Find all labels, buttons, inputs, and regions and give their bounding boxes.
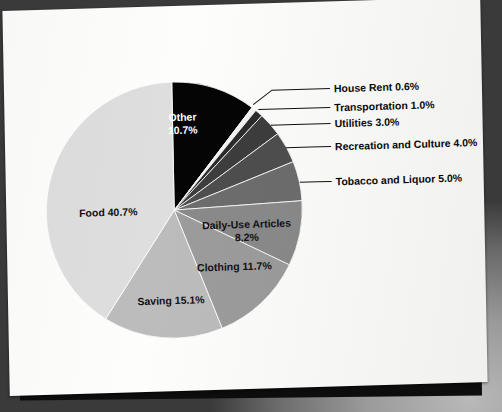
- white-paper-sheet: Other 10.7% Food 40.7% Saving 15.1% Clot…: [2, 0, 487, 396]
- slice-label-saving: Saving 15.1%: [137, 293, 205, 307]
- callout-label-house-rent: House Rent 0.6%: [334, 80, 420, 95]
- leader-line-house-rent: [253, 88, 330, 104]
- leader-line-recreation: [286, 146, 331, 147]
- callout-label-utilities: Utilities 3.0%: [334, 115, 400, 129]
- photograph-of-printed-chart: Other 10.7% Food 40.7% Saving 15.1% Clot…: [0, 0, 502, 412]
- callout-label-recreation: Recreation and Culture 4.0%: [335, 136, 478, 152]
- leader-line-transportation: [258, 107, 330, 109]
- slice-label-clothing: Clothing 11.7%: [197, 259, 273, 273]
- callout-label-transportation: Transportation 1.0%: [334, 98, 435, 113]
- slice-label-food: Food 40.7%: [79, 205, 138, 219]
- callout-labels: House Rent 0.6% Transportation 1.0% Util…: [334, 78, 479, 187]
- leader-line-tobacco: [300, 181, 332, 182]
- callout-label-tobacco: Tobacco and Liquor 5.0%: [336, 172, 463, 188]
- slice-label-daily-use-value: 8.2%: [235, 231, 260, 244]
- pie-chart-figure: Other 10.7% Food 40.7% Saving 15.1% Clot…: [2, 0, 487, 396]
- slice-label-other-value: 10.7%: [168, 123, 199, 136]
- slice-label-other-name: Other: [168, 110, 196, 123]
- pie-chart-svg: Other 10.7% Food 40.7% Saving 15.1% Clot…: [2, 0, 487, 396]
- leader-line-utilities: [271, 123, 331, 125]
